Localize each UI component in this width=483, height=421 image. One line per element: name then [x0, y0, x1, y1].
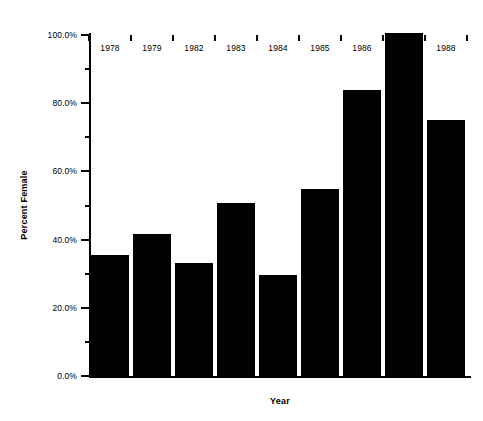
x-axis-tick [340, 35, 342, 41]
y-axis-tick-major [81, 102, 90, 104]
x-axis-tick-label: 1985 [310, 43, 329, 53]
bar-1988 [427, 120, 465, 376]
y-axis-tick-minor [85, 68, 90, 70]
x-axis-tick [256, 35, 258, 41]
bar-1987 [385, 33, 423, 376]
x-axis-tick [424, 35, 426, 41]
x-axis-title: Year [270, 396, 290, 406]
y-axis-title: Percent Female [19, 170, 29, 239]
y-axis-tick-minor [85, 205, 90, 207]
y-axis-tick-major [81, 307, 90, 309]
x-axis-tick [466, 35, 468, 41]
y-axis-tick-major [81, 170, 90, 172]
x-axis-tick-label: 1983 [226, 43, 245, 53]
x-axis-tick [172, 35, 174, 41]
x-axis-tick-label: 1986 [352, 43, 371, 53]
x-axis-tick-label: 1984 [268, 43, 287, 53]
x-axis-line [89, 376, 471, 378]
y-axis-tick-label: 0.0% [57, 371, 77, 381]
y-axis-tick-label: 60.0% [52, 166, 77, 176]
bar-1978 [91, 255, 129, 376]
x-axis-tick [214, 35, 216, 41]
x-axis-tick-label: 1987 [394, 43, 413, 53]
y-axis-tick-minor [85, 136, 90, 138]
bar-1986 [343, 90, 381, 376]
bar-1983 [217, 203, 255, 376]
y-axis-tick-major [81, 375, 90, 377]
x-axis-tick [382, 35, 384, 41]
y-axis-tick-minor [85, 273, 90, 275]
bar-1982 [175, 263, 213, 376]
y-axis-tick-major [81, 239, 90, 241]
bar-1985 [301, 189, 339, 376]
x-axis-tick-label: 1979 [142, 43, 161, 53]
bar-chart-figure: Percent Female Year 0.0%20.0%40.0%60.0%8… [0, 0, 483, 421]
x-axis-tick-label: 1982 [184, 43, 203, 53]
bar-1984 [259, 275, 297, 376]
x-axis-tick-label: 1978 [100, 43, 119, 53]
bar-1979 [133, 234, 171, 376]
y-axis-tick-label: 100.0% [48, 30, 77, 40]
y-axis-tick-label: 20.0% [52, 303, 77, 313]
y-axis-tick-label: 80.0% [52, 98, 77, 108]
x-axis-tick-label: 1988 [436, 43, 455, 53]
x-axis-tick [130, 35, 132, 41]
y-axis-tick-label: 40.0% [52, 235, 77, 245]
y-axis-tick-minor [85, 341, 90, 343]
plot-area: 0.0%20.0%40.0%60.0%80.0%100.0%1978197919… [90, 35, 470, 376]
x-axis-tick [298, 35, 300, 41]
x-axis-tick [88, 35, 90, 41]
